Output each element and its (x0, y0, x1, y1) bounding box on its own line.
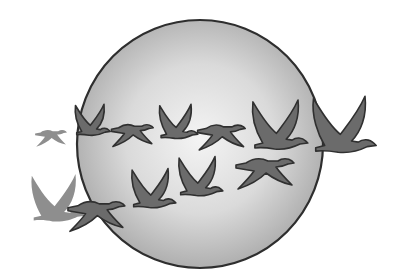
geese-over-sphere-illustration (0, 0, 397, 276)
